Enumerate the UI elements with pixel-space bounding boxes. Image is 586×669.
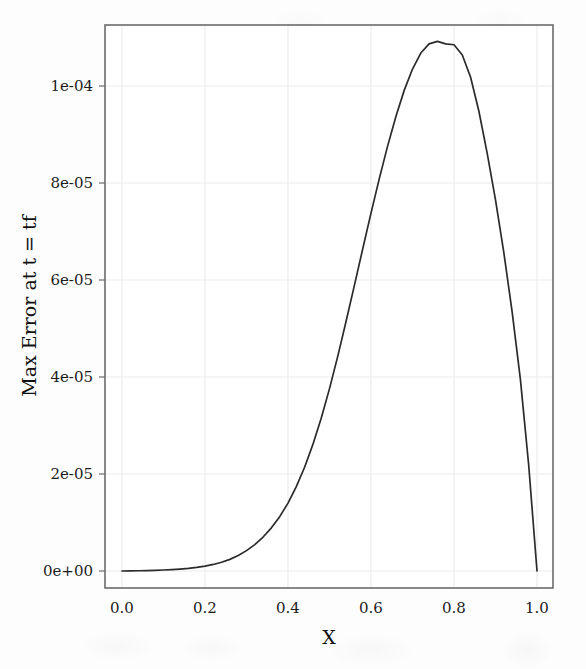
x-tick-label-5: 1.0 [525,599,549,617]
y-axis-title: Max Error at t = tf [18,213,40,396]
plot-area-background [105,25,553,588]
chart-figure: 0e+00 2e-05 4e-05 6e-05 8e-05 1e-04 0.0 … [0,0,586,669]
y-tick-label-3: 6e-05 [50,271,93,289]
y-tick-label-5: 1e-04 [50,77,93,95]
x-tick-label-4: 0.8 [442,599,466,617]
x-tick-label-2: 0.4 [276,599,300,617]
y-tick-label-0: 0e+00 [43,562,93,580]
y-tick-label-4: 8e-05 [50,174,93,192]
y-tick-label-2: 4e-05 [50,368,93,386]
x-tick-label-3: 0.6 [359,599,383,617]
x-tick-label-0: 0.0 [110,599,134,617]
x-tick-label-1: 0.2 [193,599,217,617]
x-axis-title: X [322,626,336,648]
line-chart: 0e+00 2e-05 4e-05 6e-05 8e-05 1e-04 0.0 … [0,0,586,669]
y-tick-label-1: 2e-05 [50,465,93,483]
y-tick-marks [99,86,105,571]
